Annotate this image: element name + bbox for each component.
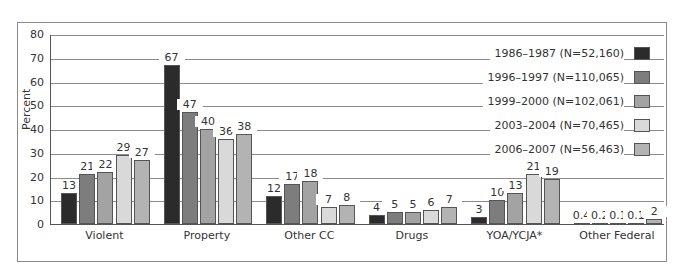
legend-item: 1999–2000 (N=102,061): [440, 90, 650, 112]
value-label: 7: [436, 194, 462, 205]
legend-item: 1996–1997 (N=110,065): [440, 66, 650, 88]
bar: [405, 212, 421, 224]
bar: [134, 160, 150, 224]
legend-item: 1986–1987 (N=52,160): [440, 42, 650, 64]
category-label: Other Federal: [567, 229, 667, 242]
gridline: [51, 35, 664, 36]
bar: [646, 219, 662, 224]
value-label: 47: [177, 99, 203, 110]
legend-item: 2003–2004 (N=70,465): [440, 114, 650, 136]
legend-swatch: [634, 47, 650, 60]
bar: [200, 129, 216, 224]
category-label: Drugs: [362, 229, 462, 242]
value-label: 19: [539, 166, 565, 177]
category-label: Violent: [54, 229, 154, 242]
bar: [236, 134, 252, 224]
legend-label: 2003–2004 (N=70,465): [490, 119, 624, 132]
y-tick-label: 30: [14, 148, 44, 159]
bar: [610, 223, 626, 225]
value-label: 22: [92, 159, 118, 170]
category-label: YOA/YCJA*: [464, 229, 564, 242]
legend-swatch: [634, 119, 650, 132]
bar: [266, 196, 282, 225]
bar: [574, 223, 590, 225]
value-label: 8: [334, 192, 360, 203]
y-tick-label: 20: [14, 172, 44, 183]
legend-label: 2006–2007 (N=56,463): [490, 143, 624, 156]
value-label: 18: [297, 168, 323, 179]
bar: [544, 179, 560, 224]
bar: [61, 193, 77, 224]
y-tick-label: 0: [14, 219, 44, 230]
bar: [79, 174, 95, 224]
bar: [164, 65, 180, 224]
bar: [423, 210, 439, 224]
value-label: 2: [641, 206, 667, 217]
legend-item: 2006–2007 (N=56,463): [440, 138, 650, 160]
bar: [182, 112, 198, 224]
value-label: 38: [231, 121, 257, 132]
category-label: Property: [157, 229, 257, 242]
value-label: 3: [466, 204, 492, 215]
legend-label: 1996–1997 (N=110,065): [483, 71, 624, 84]
legend-label: 1986–1987 (N=52,160): [490, 47, 624, 60]
legend-label: 1999–2000 (N=102,061): [483, 95, 624, 108]
bar: [507, 193, 523, 224]
legend-swatch: [634, 143, 650, 156]
legend-swatch: [634, 71, 650, 84]
bar: [97, 172, 113, 224]
value-label: 67: [159, 52, 185, 63]
category-label: Other CC: [259, 229, 359, 242]
value-label: 13: [502, 180, 528, 191]
bar: [526, 174, 542, 224]
bar: [471, 217, 487, 224]
bar: [628, 223, 644, 225]
bar: [369, 215, 385, 225]
y-tick-label: 70: [14, 53, 44, 64]
y-tick-label: 10: [14, 195, 44, 206]
bar: [489, 200, 505, 224]
bar: [116, 155, 132, 224]
y-tick-label: 40: [14, 124, 44, 135]
bar: [321, 207, 337, 224]
value-label: 27: [129, 147, 155, 158]
bar: [441, 207, 457, 224]
bar: [218, 139, 234, 225]
y-tick-label: 80: [14, 29, 44, 40]
y-tick-label: 60: [14, 77, 44, 88]
value-label: 13: [56, 180, 82, 191]
y-tick-label: 50: [14, 100, 44, 111]
value-label: 12: [261, 183, 287, 194]
legend-swatch: [634, 95, 650, 108]
bar: [339, 205, 355, 224]
bar: [284, 184, 300, 224]
bar: [592, 223, 608, 225]
bar: [387, 212, 403, 224]
